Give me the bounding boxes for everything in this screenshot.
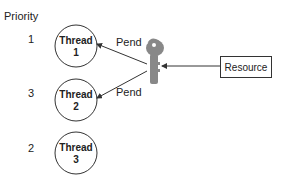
pend-label-1: Pend — [116, 36, 142, 48]
resource-box: Resource — [220, 56, 272, 78]
thread-1-name: Thread — [59, 35, 92, 46]
thread-3-num: 3 — [73, 154, 79, 165]
diagram-shapes: Thread 1 Thread 2 Thread 3 — [0, 0, 287, 179]
thread-2-node: Thread 2 — [55, 79, 97, 121]
thread-2-name: Thread — [59, 89, 92, 100]
pend-label-2: Pend — [116, 86, 142, 98]
thread-3-name: Thread — [59, 142, 92, 153]
thread-2-num: 2 — [73, 101, 79, 112]
key-icon — [146, 38, 164, 84]
thread-3-node: Thread 3 — [55, 132, 97, 174]
thread-1-num: 1 — [73, 47, 79, 58]
thread-1-node: Thread 1 — [55, 25, 97, 67]
priority-diagram: Priority 1 3 2 Thread 1 Thread 2 Thread … — [0, 0, 287, 179]
